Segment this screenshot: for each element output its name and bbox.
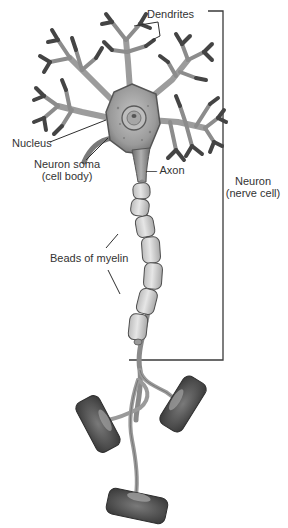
myelin-label: Beads of myelin bbox=[50, 252, 128, 264]
neuron-illustration bbox=[0, 0, 288, 528]
soma-label-line2: (cell body) bbox=[34, 170, 100, 182]
neuron-label-line2: (nerve cell) bbox=[222, 187, 284, 199]
nucleus-label: Nucleus bbox=[12, 137, 52, 149]
soma-label-line1: Neuron soma bbox=[34, 158, 100, 170]
myelin-leader-lower bbox=[108, 270, 120, 294]
nucleus bbox=[122, 106, 146, 130]
neuron-label-line1: Neuron bbox=[222, 175, 284, 187]
axon-label: — Axon bbox=[146, 164, 185, 176]
dendrites-label: Dendrites bbox=[147, 8, 194, 20]
soma-label: Neuron soma (cell body) bbox=[34, 158, 100, 182]
myelin-leader-upper bbox=[106, 234, 118, 248]
myelin-beads bbox=[128, 182, 163, 340]
neuron-label: Neuron (nerve cell) bbox=[222, 175, 284, 199]
neuron-diagram: Dendrites Nucleus Neuron soma (cell body… bbox=[0, 0, 288, 528]
